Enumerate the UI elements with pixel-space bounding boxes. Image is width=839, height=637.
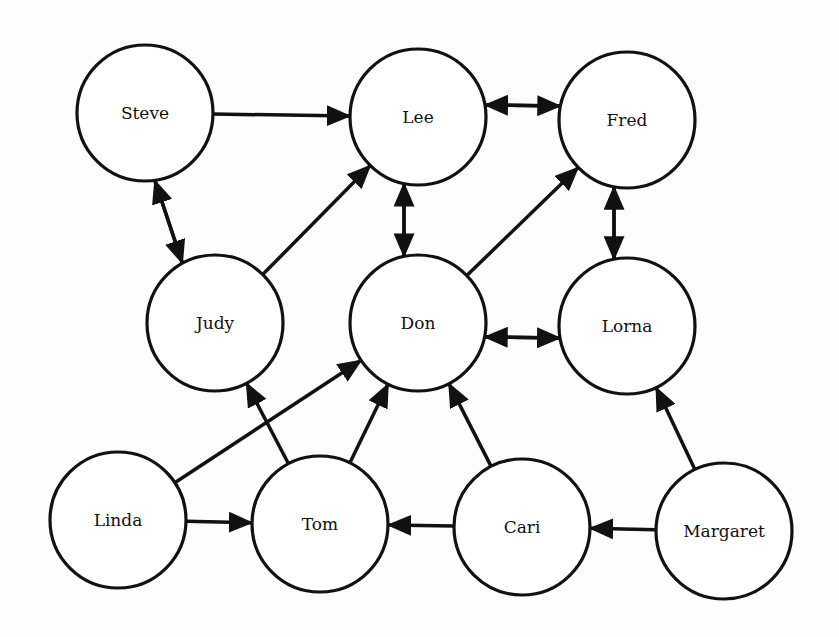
nodes-layer: SteveLeeFredJudyDonLornaLindaTomCariMarg… [50,45,792,599]
edge-don-to-fred [467,167,578,275]
node-label: Linda [94,510,143,530]
node-fred: Fred [559,52,695,188]
edge-cari-to-tom [388,525,454,526]
node-label: Tom [302,514,338,534]
node-label: Judy [194,313,235,333]
node-label: Cari [504,517,541,537]
edge-cari-to-don [449,384,491,467]
edge-judy-to-steve [155,180,183,263]
node-linda: Linda [50,452,186,588]
node-tom: Tom [252,456,388,592]
node-lorna: Lorna [559,258,695,394]
node-label: Steve [121,103,169,123]
edge-judy-to-lee [263,165,371,274]
node-label: Lorna [602,316,653,336]
edge-fred-to-lee [485,105,561,106]
node-label: Lee [402,107,433,127]
node-label: Don [401,313,436,333]
node-lee: Lee [350,49,486,185]
directed-graph-canvas: SteveLeeFredJudyDonLornaLindaTomCariMarg… [0,0,839,637]
node-steve: Steve [77,45,213,181]
node-cari: Cari [454,459,590,595]
node-margaret: Margaret [656,463,792,599]
edge-tom-to-judy [247,383,289,463]
edge-margaret-to-lorna [656,388,695,470]
edge-tom-to-don [350,384,388,463]
edge-margaret-to-cari [590,528,656,529]
edge-linda-to-tom [186,521,252,522]
node-judy: Judy [147,255,283,391]
node-don: Don [350,255,486,391]
node-label: Fred [607,110,648,130]
node-label: Margaret [683,521,765,541]
edge-don-to-lorna [485,337,560,338]
edge-steve-to-lee [213,114,350,116]
